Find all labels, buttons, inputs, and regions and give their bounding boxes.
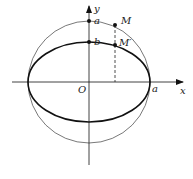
x-axis-label: x bbox=[180, 85, 186, 96]
point-b-on-y-axis bbox=[87, 40, 91, 44]
point-M-prime bbox=[113, 43, 117, 47]
ellipse-auxiliary-circle-diagram: y x O a b a M M′ bbox=[0, 0, 193, 179]
origin-label: O bbox=[78, 84, 86, 95]
y-axis-label: y bbox=[93, 3, 100, 14]
label-M: M bbox=[120, 15, 132, 26]
label-a-right: a bbox=[152, 83, 158, 94]
label-a-top: a bbox=[94, 15, 100, 26]
label-M-prime: M′ bbox=[118, 37, 132, 48]
point-M bbox=[113, 23, 117, 27]
label-b-top: b bbox=[94, 36, 100, 47]
point-a-on-y-axis bbox=[87, 19, 91, 23]
